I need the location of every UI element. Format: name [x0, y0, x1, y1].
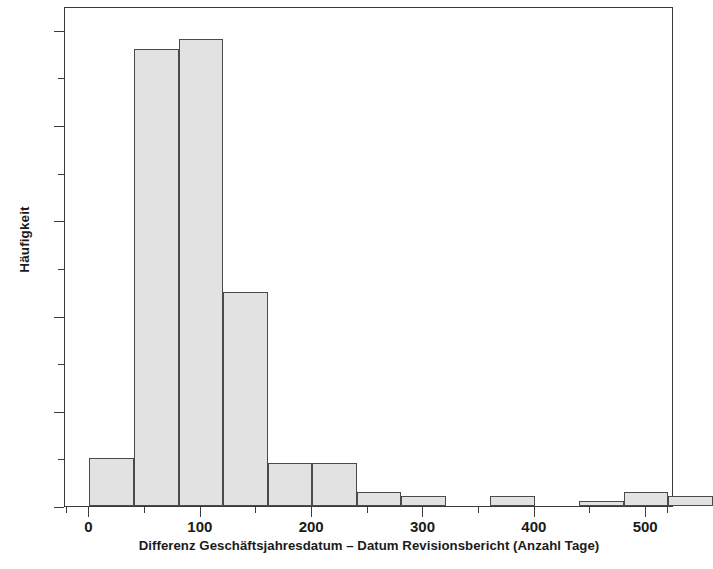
x-tick-minor [667, 507, 668, 513]
histogram-bar [223, 292, 268, 506]
x-tick-minor [589, 507, 590, 513]
x-tick-minor [66, 507, 67, 513]
y-tick-major [54, 412, 64, 413]
x-tick-label: 0 [53, 519, 123, 534]
x-axis-title: Differenz Geschäftsjahresdatum – Datum R… [64, 538, 674, 553]
x-tick-minor [255, 507, 256, 513]
x-tick-label: 400 [499, 519, 569, 534]
x-tick-label: 100 [165, 519, 235, 534]
histogram-bar [357, 492, 402, 506]
x-tick-major [422, 507, 423, 517]
y-tick-minor [58, 269, 64, 270]
x-tick-label: 200 [276, 519, 346, 534]
y-tick-minor [58, 78, 64, 79]
histogram-bar [490, 496, 535, 506]
histogram-bar [268, 463, 313, 506]
x-tick-minor [144, 507, 145, 513]
x-tick-label: 300 [387, 519, 457, 534]
y-tick-major [54, 317, 64, 318]
histogram-bar [668, 496, 713, 506]
x-tick-major [88, 507, 89, 517]
y-tick-major [54, 507, 64, 508]
histogram-bar [401, 496, 446, 506]
y-tick-major [54, 221, 64, 222]
y-tick-minor [58, 364, 64, 365]
histogram-bar [89, 458, 134, 506]
histogram-bar [624, 492, 669, 506]
histogram-bar [134, 49, 179, 506]
y-axis-title: Häufigkeit [17, 180, 32, 300]
histogram-bar [179, 39, 224, 506]
histogram-bar [579, 501, 624, 506]
y-tick-major [54, 126, 64, 127]
histogram-bar [312, 463, 357, 506]
x-tick-minor [367, 507, 368, 513]
x-tick-label: 500 [610, 519, 680, 534]
plot-area [65, 8, 672, 506]
x-tick-major [311, 507, 312, 517]
x-tick-major [200, 507, 201, 517]
plot-frame [64, 7, 673, 507]
x-tick-major [645, 507, 646, 517]
y-tick-major [54, 31, 64, 32]
x-tick-major [534, 507, 535, 517]
y-tick-minor [58, 459, 64, 460]
x-tick-minor [478, 507, 479, 513]
y-tick-minor [58, 174, 64, 175]
